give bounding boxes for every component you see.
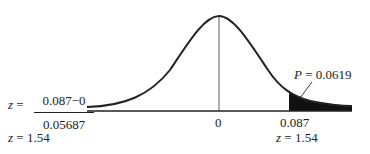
formula-lhs: z =	[8, 98, 24, 111]
mean-tick-label: 0	[215, 116, 222, 129]
z-formula-fraction: 0.087−0 0.05687	[34, 93, 94, 133]
z-score-under-tick: z = 1.54	[276, 131, 318, 144]
p-pointer-line	[300, 82, 312, 98]
formula-result: z = 1.54	[8, 131, 50, 144]
bell-curve	[87, 16, 352, 107]
value-tick-label: 0.087	[280, 116, 309, 129]
formula-numerator: 0.087−0	[34, 93, 94, 113]
p-value-label: P = 0.0619	[294, 68, 352, 81]
